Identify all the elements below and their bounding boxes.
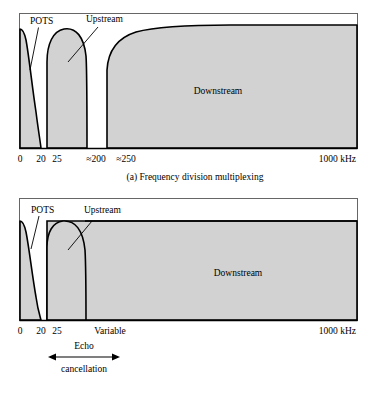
plot-a: POTS Upstream Downstream 0 20 25 ≈200 ≈2…	[0, 0, 390, 172]
echo-label-line2: cancellation	[61, 364, 107, 374]
x-tick-25-b: 25	[52, 326, 62, 336]
label-pots-a: POTS	[30, 16, 53, 26]
band-downstream-b	[47, 221, 357, 320]
x-tick-250-a: ≈250	[116, 154, 136, 164]
leader-line-pots-b	[31, 216, 39, 249]
x-tick-20-b: 20	[36, 326, 46, 336]
x-tick-1000-a: 1000 kHz	[319, 154, 356, 164]
adsl-spectrum-figure: POTS Upstream Downstream 0 20 25 ≈200 ≈2…	[0, 0, 390, 395]
x-tick-25-a: 25	[52, 154, 62, 164]
label-upstream-b: Upstream	[84, 205, 122, 215]
leader-line-pots-a	[30, 28, 39, 71]
panel-echo-cancellation: POTS Upstream Downstream 0 20 25 Variabl…	[0, 192, 390, 395]
panel-frequency-division-multiplexing: POTS Upstream Downstream 0 20 25 ≈200 ≈2…	[0, 0, 390, 192]
echo-label-line1: Echo	[74, 341, 94, 351]
band-pots-b	[20, 221, 41, 320]
band-pots-a	[20, 29, 41, 148]
label-upstream-a: Upstream	[86, 14, 124, 24]
x-tick-variable-b: Variable	[94, 326, 126, 336]
echo-arrow-head-left	[48, 354, 56, 361]
caption-a: (a) Frequency division multiplexing	[0, 172, 390, 182]
x-tick-20-a: 20	[36, 154, 46, 164]
label-downstream-a: Downstream	[194, 86, 243, 96]
x-tick-1000-b: 1000 kHz	[319, 326, 356, 336]
label-downstream-b: Downstream	[214, 268, 263, 278]
x-tick-0-a: 0	[18, 154, 23, 164]
echo-arrow-head-right	[112, 354, 120, 361]
echo-cancellation-annotation: Echo cancellation	[48, 341, 120, 374]
x-tick-0-b: 0	[18, 326, 23, 336]
x-tick-200-a: ≈200	[86, 154, 106, 164]
plot-b: POTS Upstream Downstream 0 20 25 Variabl…	[0, 192, 390, 395]
label-pots-b: POTS	[31, 205, 54, 215]
